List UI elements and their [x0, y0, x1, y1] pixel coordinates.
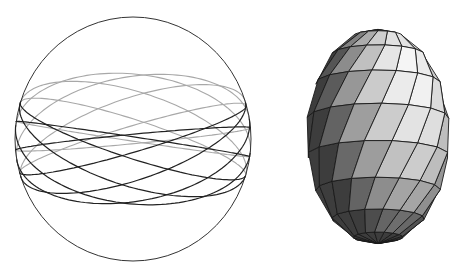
back-curve-segment	[188, 111, 246, 177]
lemon-face	[309, 147, 320, 191]
front-curve-segment	[237, 119, 249, 154]
back-curve-segment	[20, 103, 247, 172]
back-curve-segment	[20, 85, 245, 176]
sphere-wireframe	[15, 17, 251, 261]
lemon-surface	[307, 29, 449, 243]
figure-canvas	[0, 0, 463, 269]
sphere-outline	[15, 17, 251, 261]
back-curve-segment	[16, 128, 251, 151]
back-curve-segment	[16, 74, 249, 159]
front-curve-segment	[20, 167, 78, 175]
figure	[0, 0, 463, 269]
